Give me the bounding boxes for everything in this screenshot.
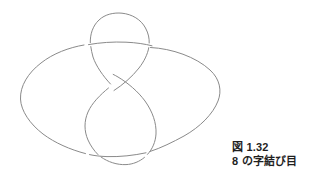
upper-loop-left-upper-arc	[90, 13, 149, 43]
outer-ellipse-left-arc	[20, 45, 85, 154]
lower-loop-left-arc	[85, 88, 109, 155]
lower-loop-bottom-arc	[101, 157, 145, 165]
upper-loop-left-arc	[91, 47, 111, 84]
caption-line-title: 8 の字結び目	[232, 154, 308, 168]
outer-ellipse-top-arc	[89, 42, 153, 46]
caption-line-number: 図 1.32	[232, 140, 308, 154]
outer-ellipse-right-arc	[150, 48, 220, 152]
figure-caption: 図 1.32 8 の字結び目	[232, 140, 308, 168]
figure-container: 図 1.32 8 の字結び目	[0, 0, 310, 186]
upper-loop-right-arc	[114, 48, 149, 91]
